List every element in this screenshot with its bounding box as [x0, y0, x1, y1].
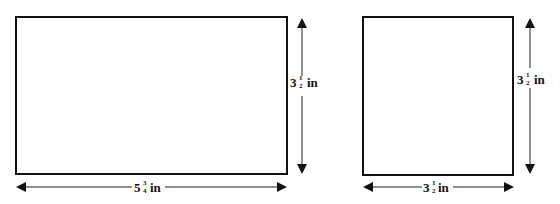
square-height-dimension: 3 1 2 in [517, 18, 546, 174]
square-width-dimension: 3 1 2 in [363, 179, 514, 195]
arrow-left-icon [16, 182, 26, 192]
rectangle-width-dimension: 5 3 4 in [16, 179, 287, 195]
rectangle-figure: 3 1 2 in 5 3 4 in [16, 17, 319, 195]
rectangle-width-whole: 5 [134, 180, 141, 195]
square-width-frac-num: 1 [432, 179, 436, 187]
rectangle-height-dimension: 3 1 2 in [290, 18, 319, 174]
arrow-right-icon [277, 182, 287, 192]
square-shape [363, 17, 513, 175]
rectangle-height-whole: 3 [290, 75, 297, 90]
arrow-down-icon [297, 164, 307, 174]
arrow-down-icon [525, 164, 535, 174]
square-height-whole: 3 [517, 72, 524, 87]
arrow-up-icon [525, 18, 535, 28]
rectangle-width-frac-num: 3 [143, 179, 147, 187]
rectangle-shape [16, 17, 287, 174]
square-width-whole: 3 [423, 180, 430, 195]
rectangle-width-unit: in [150, 180, 162, 195]
square-width-frac-den: 2 [432, 187, 436, 195]
arrow-left-icon [363, 182, 373, 192]
dimension-diagram: 3 1 2 in 5 3 4 in 3 1 2 in [0, 0, 560, 204]
square-height-frac-num: 1 [526, 71, 530, 79]
rectangle-height-frac-den: 2 [299, 82, 303, 90]
rectangle-height-frac-num: 1 [299, 74, 303, 82]
square-width-unit: in [438, 180, 450, 195]
square-figure: 3 1 2 in 3 1 2 in [363, 17, 546, 195]
rectangle-height-unit: in [307, 75, 319, 90]
square-height-frac-den: 2 [526, 79, 530, 87]
arrow-up-icon [297, 18, 307, 28]
rectangle-width-frac-den: 4 [143, 187, 147, 195]
arrow-right-icon [504, 182, 514, 192]
square-height-unit: in [534, 72, 546, 87]
